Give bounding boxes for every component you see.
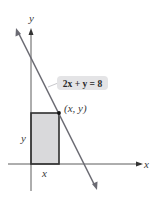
x-axis-label: x — [143, 158, 149, 170]
y-axis — [29, 28, 34, 191]
rect-width-label: x — [41, 167, 47, 179]
y-axis-arrow-icon — [29, 28, 34, 35]
rect-height-label: y — [20, 132, 26, 144]
diagram-canvas: 2x + y = 8 (x, y) y x y x — [0, 0, 157, 201]
x-axis — [8, 162, 143, 167]
x-axis-arrow-icon — [136, 162, 143, 167]
point-label: (x, y) — [64, 102, 87, 115]
y-axis-label: y — [28, 12, 34, 24]
inscribed-rectangle — [31, 113, 59, 164]
corner-point — [57, 111, 61, 115]
equation-label: 2x + y = 8 — [63, 79, 103, 89]
equation-callout: 2x + y = 8 — [48, 76, 108, 90]
